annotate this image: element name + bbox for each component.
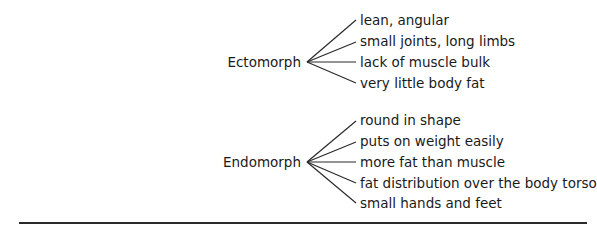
trait-item: round in shape xyxy=(360,112,461,128)
trait-item: small joints, long limbs xyxy=(360,33,515,49)
trait-item: small hands and feet xyxy=(360,195,502,211)
group-label-endomorph: Endomorph xyxy=(200,154,301,170)
trait-item: fat distribution over the body torso xyxy=(360,175,597,191)
trait-item: lack of muscle bulk xyxy=(360,54,490,70)
trait-item: puts on weight easily xyxy=(360,133,504,149)
bottom-divider xyxy=(19,222,587,224)
group-label-ectomorph: Ectomorph xyxy=(200,54,301,70)
trait-item: more fat than muscle xyxy=(360,154,505,170)
trait-item: very little body fat xyxy=(360,75,485,91)
trait-item: lean, angular xyxy=(360,12,449,28)
